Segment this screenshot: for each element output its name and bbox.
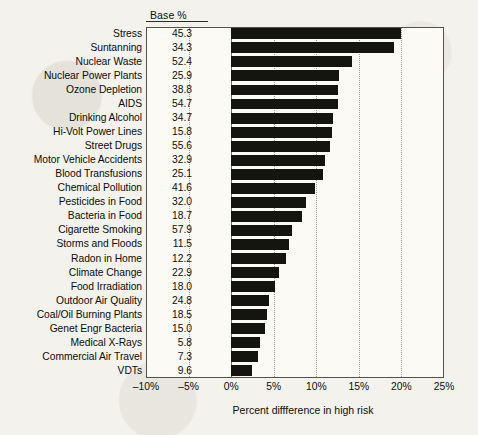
bar (231, 323, 265, 334)
bar (231, 211, 302, 222)
bar (231, 337, 260, 348)
bar (231, 225, 291, 236)
category-label: Food Irradiation (0, 280, 142, 294)
bar (231, 127, 332, 138)
category-label: Commercial Air Travel (0, 350, 142, 364)
chart-row: Pesticides in Food32.0 (0, 195, 478, 209)
bar (231, 365, 252, 376)
base-percent-value: 32.9 (148, 153, 192, 167)
base-percent-value: 18.5 (148, 308, 192, 322)
base-percent-value: 7.3 (148, 350, 192, 364)
chart-row: Outdoor Air Quality24.8 (0, 294, 478, 308)
bar (231, 183, 314, 194)
x-tick-label: –10% (133, 381, 159, 392)
bar (231, 295, 269, 306)
category-label: Suntanning (0, 41, 142, 55)
base-percent-value: 34.3 (148, 41, 192, 55)
category-label: Bacteria in Food (0, 209, 142, 223)
bar (231, 99, 337, 110)
chart-row: Commercial Air Travel7.3 (0, 350, 478, 364)
x-tick-label: 15% (349, 381, 370, 392)
chart-row: AIDS54.7 (0, 97, 478, 111)
chart-row: Bacteria in Food18.7 (0, 209, 478, 223)
chart-row: Chemical Pollution41.6 (0, 181, 478, 195)
chart-row: Food Irradiation18.0 (0, 280, 478, 294)
x-tick-label: 10% (306, 381, 327, 392)
base-percent-value: 54.7 (148, 97, 192, 111)
x-tick-label: 0% (224, 381, 239, 392)
base-percent-value: 52.4 (148, 55, 192, 69)
chart-row: Suntanning34.3 (0, 41, 478, 55)
chart-row: Hi-Volt Power Lines15.8 (0, 125, 478, 139)
bar (231, 85, 337, 96)
category-label: Cigarette Smoking (0, 223, 142, 237)
category-label: Genet Engr Bacteria (0, 322, 142, 336)
bar (231, 56, 352, 67)
chart-row: Climate Change22.9 (0, 266, 478, 280)
category-label: Pesticides in Food (0, 195, 142, 209)
x-axis-title: Percent diffference in high risk (0, 404, 478, 416)
chart-row: Blood Transfusions25.1 (0, 167, 478, 181)
base-percent-value: 55.6 (148, 139, 192, 153)
chart-rows: Stress45.3Suntanning34.3Nuclear Waste52.… (0, 27, 478, 378)
chart-row: Genet Engr Bacteria15.0 (0, 322, 478, 336)
bar (231, 253, 285, 264)
base-percent-value: 15.0 (148, 322, 192, 336)
category-label: Outdoor Air Quality (0, 294, 142, 308)
category-label: Drinking Alcohol (0, 111, 142, 125)
base-percent-value: 41.6 (148, 181, 192, 195)
bar (231, 141, 330, 152)
bar (231, 70, 339, 81)
chart-row: Stress45.3 (0, 27, 478, 41)
bar (231, 351, 258, 362)
chart-row: Drinking Alcohol34.7 (0, 111, 478, 125)
base-percent-value: 18.0 (148, 280, 192, 294)
chart-row: Street Drugs55.6 (0, 139, 478, 153)
x-tick-label: –5% (178, 381, 199, 392)
chart-row: Radon in Home12.2 (0, 252, 478, 266)
x-tick-label: 25% (434, 381, 455, 392)
category-label: Climate Change (0, 266, 142, 280)
category-label: AIDS (0, 97, 142, 111)
base-percent-value: 11.5 (148, 237, 192, 251)
chart-row: Coal/Oil Burning Plants18.5 (0, 308, 478, 322)
chart-row: Ozone Depletion38.8 (0, 83, 478, 97)
category-label: Stress (0, 27, 142, 41)
bar (231, 281, 275, 292)
bar (231, 197, 306, 208)
category-label: Chemical Pollution (0, 181, 142, 195)
chart-row: Nuclear Power Plants25.9 (0, 69, 478, 83)
chart-row: Motor Vehicle Accidents32.9 (0, 153, 478, 167)
x-axis-ticks: –10%–5%0%5%10%15%20%25% (0, 381, 478, 397)
category-label: Radon in Home (0, 252, 142, 266)
category-label: Coal/Oil Burning Plants (0, 308, 142, 322)
bar (231, 309, 267, 320)
category-label: Medical X-Rays (0, 336, 142, 350)
base-percent-value: 45.3 (148, 27, 192, 41)
category-label: VDTs (0, 364, 142, 378)
bar (231, 239, 289, 250)
chart-row: Medical X-Rays5.8 (0, 336, 478, 350)
base-percent-value: 18.7 (148, 209, 192, 223)
horizontal-bar-chart: Base % Stress45.3Suntanning34.3Nuclear W… (0, 0, 478, 435)
chart-row: Nuclear Waste52.4 (0, 55, 478, 69)
base-percent-value: 15.8 (148, 125, 192, 139)
bar (231, 155, 325, 166)
bar (231, 42, 394, 53)
category-label: Nuclear Waste (0, 55, 142, 69)
base-percent-value: 34.7 (148, 111, 192, 125)
base-percent-value: 9.6 (148, 364, 192, 378)
bar (231, 113, 333, 124)
x-tick-label: 20% (391, 381, 412, 392)
category-label: Ozone Depletion (0, 83, 142, 97)
base-percent-value: 22.9 (148, 266, 192, 280)
base-percent-value: 32.0 (148, 195, 192, 209)
base-percent-value: 12.2 (148, 252, 192, 266)
category-label: Motor Vehicle Accidents (0, 153, 142, 167)
bar (231, 267, 279, 278)
base-percent-value: 25.9 (148, 69, 192, 83)
bar (231, 28, 401, 39)
category-label: Street Drugs (0, 139, 142, 153)
base-percent-value: 24.8 (148, 294, 192, 308)
base-percent-value: 25.1 (148, 167, 192, 181)
